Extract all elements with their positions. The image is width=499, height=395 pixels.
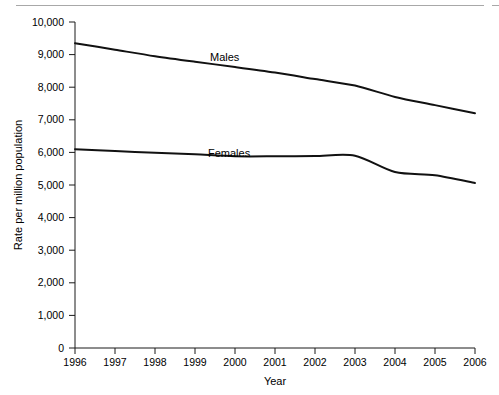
x-tick-label: 2006 <box>463 356 487 368</box>
x-tick-label: 2002 <box>303 356 327 368</box>
chart-figure: 0 1,000 2,000 3,000 4,000 5,000 6,000 7,… <box>0 0 499 395</box>
x-tick-label: 2000 <box>223 356 247 368</box>
y-tick-label: 1,000 <box>38 309 64 321</box>
x-tick-label: 2003 <box>343 356 367 368</box>
series-line-females <box>75 149 475 183</box>
x-tick-label: 2001 <box>263 356 287 368</box>
x-axis-ticks: 1996 1997 1998 1999 2000 2001 2002 2003 … <box>63 348 487 368</box>
line-chart-plot: 0 1,000 2,000 3,000 4,000 5,000 6,000 7,… <box>0 0 499 395</box>
x-tick-label: 1996 <box>63 356 87 368</box>
y-tick-label: 7,000 <box>38 113 64 125</box>
series-line-males <box>75 43 475 113</box>
y-tick-label: 5,000 <box>38 179 64 191</box>
x-tick-label: 1999 <box>183 356 207 368</box>
series-label-males: Males <box>210 51 240 63</box>
y-tick-label: 9,000 <box>38 48 64 60</box>
x-tick-label: 2005 <box>423 356 447 368</box>
y-tick-label: 8,000 <box>38 81 64 93</box>
x-tick-label: 1998 <box>143 356 167 368</box>
x-axis-title: Year <box>264 375 287 387</box>
series-label-females: Females <box>208 147 251 159</box>
y-tick-label: 6,000 <box>38 146 64 158</box>
y-axis-ticks: 0 1,000 2,000 3,000 4,000 5,000 6,000 7,… <box>32 16 75 354</box>
y-tick-label: 2,000 <box>38 276 64 288</box>
y-tick-label: 10,000 <box>32 16 64 28</box>
x-tick-label: 1997 <box>103 356 127 368</box>
y-axis-title: Rate per million population <box>12 120 24 250</box>
y-tick-label: 0 <box>58 342 64 354</box>
y-tick-label: 4,000 <box>38 211 64 223</box>
x-tick-label: 2004 <box>383 356 407 368</box>
y-tick-label: 3,000 <box>38 244 64 256</box>
